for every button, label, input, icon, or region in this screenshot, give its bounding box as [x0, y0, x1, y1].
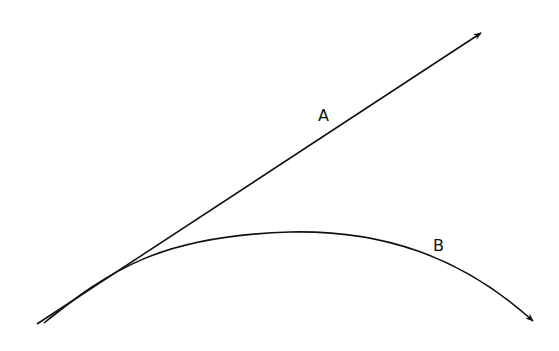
diagram-canvas: A B — [0, 0, 559, 351]
path-b: B — [44, 232, 533, 323]
label-b: B — [433, 236, 444, 255]
label-a: A — [318, 106, 329, 125]
curved-arrow-b — [44, 232, 533, 323]
